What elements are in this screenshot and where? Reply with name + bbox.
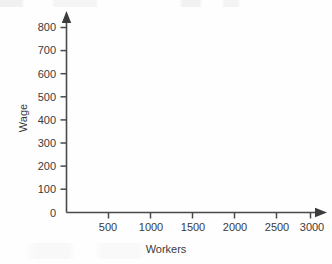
y-tick-label-0: 0 [22,208,56,219]
x-axis-title: Workers [0,243,332,255]
y-tick-label-200: 200 [22,161,56,172]
y-tick-label-100: 100 [22,184,56,195]
x-tick-label-2000: 2000 [223,222,247,233]
y-tick-label-300: 300 [22,138,56,149]
chart-figure: 800 700 600 500 400 300 200 100 0 500 10… [0,0,332,264]
y-tick-label-700: 700 [22,45,56,56]
x-axis-ticks [109,213,311,219]
x-tick-label-500: 500 [99,222,117,233]
plot-area [67,20,318,212]
x-tick-label-3000: 3000 [300,222,324,233]
y-axis-ticks [61,28,67,190]
x-tick-label-1500: 1500 [181,222,205,233]
y-axis-title: Wage [17,101,29,135]
y-tick-label-600: 600 [22,69,56,80]
y-tick-label-800: 800 [22,22,56,33]
x-tick-label-1000: 1000 [139,222,163,233]
x-tick-label-2500: 2500 [265,222,289,233]
